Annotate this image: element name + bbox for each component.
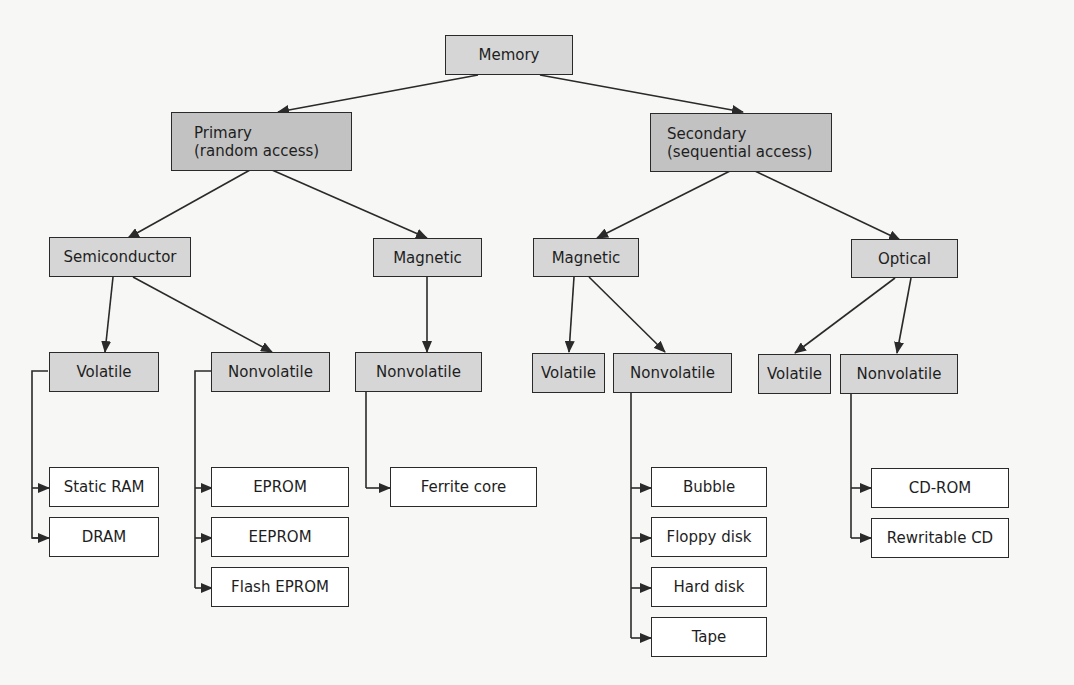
node-secondary-line1: Secondary bbox=[667, 125, 746, 143]
node-primary-magnetic-label: Magnetic bbox=[393, 249, 462, 267]
node-primary-line1: Primary bbox=[194, 124, 252, 142]
leaf-floppy-disk: Floppy disk bbox=[651, 517, 767, 557]
leaf-cd-rom-label: CD-ROM bbox=[909, 479, 972, 497]
leaf-dram: DRAM bbox=[49, 517, 159, 557]
node-secondary-line2: (sequential access) bbox=[667, 143, 812, 161]
node-secondary-magnetic-label: Magnetic bbox=[552, 249, 621, 267]
memory-hierarchy-diagram: Memory Primary (random access) Secondary… bbox=[0, 0, 1074, 685]
leaf-hard-disk-label: Hard disk bbox=[674, 578, 745, 596]
node-optical-volatile-label: Volatile bbox=[767, 365, 822, 383]
leaf-eeprom: EEPROM bbox=[211, 517, 349, 557]
node-semiconductor-nonvolatile: Nonvolatile bbox=[211, 352, 330, 392]
leaf-flash-eprom-label: Flash EPROM bbox=[231, 578, 329, 596]
node-semiconductor-nonvolatile-label: Nonvolatile bbox=[228, 363, 313, 381]
node-primary-magnetic-nonvolatile: Nonvolatile bbox=[355, 352, 482, 392]
leaf-ferrite-core-label: Ferrite core bbox=[421, 478, 507, 496]
node-secondary-magnetic: Magnetic bbox=[533, 238, 639, 277]
leaf-flash-eprom: Flash EPROM bbox=[211, 567, 349, 607]
leaf-eprom-label: EPROM bbox=[253, 478, 307, 496]
node-primary-line2: (random access) bbox=[194, 142, 319, 160]
leaf-floppy-disk-label: Floppy disk bbox=[667, 528, 752, 546]
node-secondary: Secondary (sequential access) bbox=[650, 113, 832, 172]
node-primary-magnetic: Magnetic bbox=[373, 238, 482, 277]
leaf-static-ram: Static RAM bbox=[49, 467, 159, 507]
node-optical-volatile: Volatile bbox=[758, 354, 831, 394]
node-optical-nonvolatile-label: Nonvolatile bbox=[857, 365, 942, 383]
node-secondary-magnetic-nonvolatile-label: Nonvolatile bbox=[630, 364, 715, 382]
leaf-ferrite-core: Ferrite core bbox=[390, 467, 537, 507]
leaf-bubble-label: Bubble bbox=[683, 478, 735, 496]
node-primary-magnetic-nonvolatile-label: Nonvolatile bbox=[376, 363, 461, 381]
node-semiconductor-label: Semiconductor bbox=[64, 248, 177, 266]
leaf-cd-rom: CD-ROM bbox=[871, 468, 1009, 508]
node-primary: Primary (random access) bbox=[171, 112, 352, 171]
node-optical-label: Optical bbox=[878, 250, 931, 268]
node-semiconductor: Semiconductor bbox=[49, 237, 191, 277]
node-secondary-magnetic-nonvolatile: Nonvolatile bbox=[613, 353, 732, 393]
leaf-rewritable-cd: Rewritable CD bbox=[871, 518, 1009, 558]
node-semiconductor-volatile: Volatile bbox=[49, 352, 159, 392]
leaf-eprom: EPROM bbox=[211, 467, 349, 507]
leaf-dram-label: DRAM bbox=[82, 528, 127, 546]
leaf-rewritable-cd-label: Rewritable CD bbox=[887, 529, 993, 547]
node-optical-nonvolatile: Nonvolatile bbox=[840, 354, 958, 394]
leaf-eeprom-label: EEPROM bbox=[248, 528, 311, 546]
node-secondary-magnetic-volatile: Volatile bbox=[532, 353, 605, 393]
leaf-bubble: Bubble bbox=[651, 467, 767, 507]
node-optical: Optical bbox=[851, 239, 958, 278]
leaf-tape: Tape bbox=[651, 617, 767, 657]
connector-lines bbox=[0, 0, 1074, 685]
leaf-hard-disk: Hard disk bbox=[651, 567, 767, 607]
node-memory-label: Memory bbox=[478, 46, 539, 64]
leaf-static-ram-label: Static RAM bbox=[64, 478, 145, 496]
node-memory: Memory bbox=[445, 35, 573, 75]
node-semiconductor-volatile-label: Volatile bbox=[76, 363, 131, 381]
node-secondary-magnetic-volatile-label: Volatile bbox=[541, 364, 596, 382]
leaf-tape-label: Tape bbox=[692, 628, 727, 646]
